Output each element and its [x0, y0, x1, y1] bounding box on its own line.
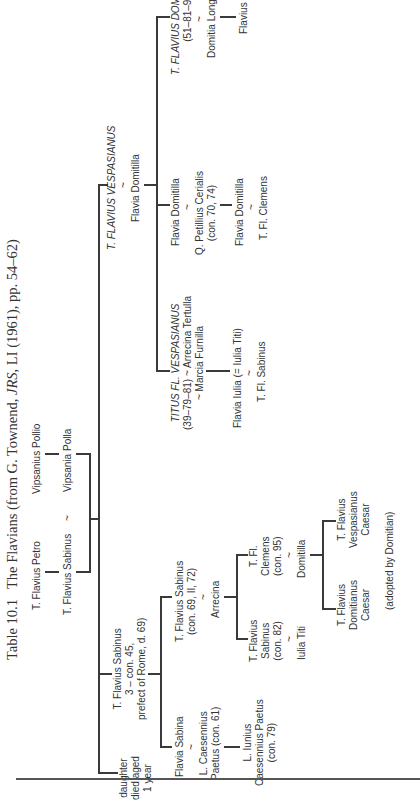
node-titus: TITUS FL. VESPASIANUS(39–79–81) ~ Arreci…	[170, 296, 206, 430]
line-con69-children-stem	[224, 596, 236, 598]
line-to-titus	[156, 370, 170, 372]
marriage-sabinus-con69: ~	[198, 594, 210, 600]
marriage-flavia-iulia: ~	[244, 370, 256, 376]
table-caption: Table 10.1The Flavians (from G. Townend,…	[4, 239, 21, 660]
line-vespasian-children-bar	[156, 16, 158, 372]
line-to-domitianus-caesar	[322, 608, 336, 610]
node-domitilla-granddaughter: Flavia Domitilla	[234, 178, 246, 246]
node-vespasian-wife: Flavia Domitilla	[130, 154, 142, 222]
line-to-iunius-paetus	[224, 746, 240, 748]
line-to-domitilla-daughter	[156, 204, 170, 206]
node-vespasianus-caesar: T. FlaviusVespasianusCaesar	[336, 491, 372, 548]
node-sabinus-prefect: T. Flavius Sabinus3 – con. 45,prefect of…	[112, 618, 148, 720]
marriage-domitian: ~	[194, 16, 206, 22]
node-domitilla-daughter: Flavia Domitilla	[170, 178, 182, 246]
caption-text-after: , LI (1961), pp. 54–62)	[4, 239, 20, 372]
table-number: Table 10.1	[4, 599, 20, 660]
line-to-flavius-son	[220, 16, 236, 18]
line-to-clemens-con95	[236, 554, 248, 556]
marriage-vespasian: ~	[118, 182, 130, 188]
node-fl-sabinus: T. Fl. Sabinus	[256, 341, 268, 402]
line-prefect-children-stem	[148, 673, 160, 675]
line-to-sabinus-prefect	[98, 673, 112, 675]
node-clemens-con95: T. Fl.Clemens(con. 95)	[248, 537, 284, 576]
marriage-con95: ~	[284, 552, 296, 558]
node-domitian: T. FLAVIUS DOMITIANUS(51–81–96)	[170, 0, 194, 75]
page-bottom-rule	[16, 778, 420, 780]
node-flavia-sabina: Flavia Sabina	[174, 716, 186, 777]
node-domitianus-caesar: T. FlaviusDomitianusCaesar	[336, 580, 372, 630]
marriage-flavia-sabina: ~	[186, 744, 198, 750]
node-domitilla-clemens-wife: Domitilla	[296, 540, 308, 578]
line-clemens-children-bar	[322, 520, 324, 610]
node-flavius-son: Flavius	[238, 2, 250, 34]
node-caesennius-paetus: L. CaesenniusPaetus (con. 61)	[198, 707, 222, 780]
node-arrecina: Arrecina	[210, 581, 222, 618]
line-gen2-siblings	[98, 184, 100, 774]
node-sabinus-sr: T. Flavius Sabinus	[62, 534, 74, 615]
line-prefect-children-bar	[160, 596, 162, 748]
line-to-daughter	[98, 772, 118, 774]
node-cerialis: Q. Petillius Cerialis(con. 70, 74)	[194, 171, 218, 255]
node-vipsania: Vipsania Polla	[62, 429, 74, 492]
caption-text-before: The Flavians (from G. Townend,	[4, 395, 20, 589]
line-vipsania-down	[76, 453, 90, 455]
line-to-sabinus-con82	[236, 638, 248, 640]
marriage-domitilla-granddaughter: ~	[246, 204, 258, 210]
marriage-sabinus-vipsania: ~	[62, 515, 74, 521]
line-marriage-bar-1	[89, 453, 91, 573]
node-fl-clemens: T. Fl. Clemens	[258, 176, 270, 240]
line-to-flavia-iulia	[206, 370, 230, 372]
node-sabinus-con82: T. FlaviusSabinus(con. 82)	[248, 620, 284, 662]
line-petro-down	[45, 571, 59, 573]
line-to-flavia-sabina	[160, 746, 172, 748]
line-vespasian-children-stem	[144, 184, 156, 186]
node-iunius-paetus: L. IuniusCaesennius Paetus(con. 79)	[242, 699, 278, 786]
node-sabinus-con69: T. Flavius Sabinus(con. 69, II, 72)	[174, 561, 198, 642]
marriage-domitilla-daughter: ~	[182, 204, 194, 210]
line-sabinus-sr-down	[76, 571, 90, 573]
line-clemens-children-stem	[310, 554, 322, 556]
line-to-domitilla-granddaughter	[220, 204, 232, 206]
note-adopted-by-domitian: (adopted by Domitian)	[384, 512, 396, 610]
node-pollio: Vipsanius Pollio	[31, 424, 43, 494]
node-vespasian: T. FLAVIUS VESPASIANUS	[106, 126, 118, 251]
marriage-con82: ~	[284, 636, 296, 642]
line-con69-children-bar	[236, 554, 238, 640]
line-to-vespasianus-caesar	[322, 520, 336, 522]
node-flavia-iulia: Flavia Iulia (= Iulia Titi)	[232, 328, 244, 428]
line-to-domitian	[156, 16, 170, 18]
line-pollio-down	[45, 453, 59, 455]
flavian-family-tree-page: Table 10.1The Flavians (from G. Townend,…	[0, 0, 420, 810]
node-domitia: Domitia Longina	[206, 0, 218, 58]
line-to-sabinus-con69	[160, 596, 172, 598]
caption-journal: JRS	[4, 372, 20, 395]
node-petro: T. Flavius Petro	[31, 541, 43, 610]
node-iulia-titi: Iulia Titi	[296, 626, 308, 660]
